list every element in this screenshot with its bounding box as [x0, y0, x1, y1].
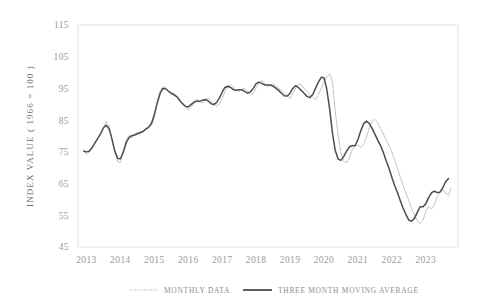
index-value-line-chart: 455565758595105115 201320142015201620172…	[0, 0, 499, 305]
series-line-monthly-data	[84, 74, 451, 224]
chart-legend: MONTHLY DATA THREE MONTH MOVING AVERAGE	[130, 286, 419, 295]
x-tick-label: 2021	[348, 255, 369, 265]
y-tick-label: 105	[54, 52, 69, 62]
y-tick-label: 45	[59, 242, 69, 252]
x-tick-label: 2016	[178, 255, 199, 265]
y-axis-tick-labels: 455565758595105115	[54, 20, 69, 252]
y-tick-label: 75	[59, 147, 69, 157]
x-tick-label: 2023	[415, 255, 436, 265]
x-tick-label: 2022	[382, 255, 403, 265]
x-tick-label: 2020	[314, 255, 335, 265]
x-tick-label: 2014	[110, 255, 131, 265]
x-tick-label: 2017	[212, 255, 233, 265]
y-tick-label: 95	[59, 84, 69, 94]
y-axis-title: INDEX VALUE ( 1966 = 100 )	[25, 65, 35, 207]
series-line-three-month-moving-average	[84, 77, 449, 221]
legend-label-three-month-moving-average: THREE MONTH MOVING AVERAGE	[278, 286, 419, 295]
y-tick-label: 65	[59, 179, 69, 189]
x-tick-label: 2018	[246, 255, 267, 265]
y-tick-label: 85	[59, 116, 69, 126]
x-tick-label: 2013	[76, 255, 97, 265]
x-axis-tick-labels: 2013201420152016201720182019202020212022…	[76, 255, 436, 265]
chart-svg: 455565758595105115 201320142015201620172…	[0, 0, 499, 305]
legend-label-monthly-data: MONTHLY DATA	[164, 286, 230, 295]
y-tick-label: 55	[59, 211, 69, 221]
x-tick-label: 2015	[144, 255, 165, 265]
y-tick-label: 115	[54, 20, 69, 30]
plot-area-frame	[78, 25, 458, 247]
x-tick-label: 2019	[280, 255, 301, 265]
